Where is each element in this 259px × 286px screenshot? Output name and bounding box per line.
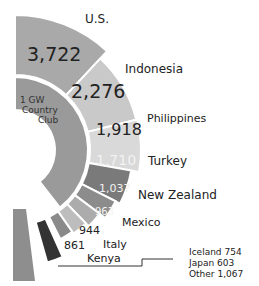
inner-ring-label: 1 GW Country Club <box>20 95 64 125</box>
label-philippines: Philippines <box>147 113 206 124</box>
note-other: Other 1,067 <box>189 269 243 280</box>
label-new-zealand: New Zealand <box>138 189 217 201</box>
value-turkey: 1,710 <box>96 153 136 167</box>
value-philippines: 1,918 <box>96 122 142 138</box>
label-turkey: Turkey <box>148 155 187 167</box>
inner-label-line2: Country <box>20 105 64 115</box>
inner-label-line3: Club <box>20 115 64 125</box>
note-iceland: Iceland 754 <box>189 247 243 258</box>
value-mexico: 963 <box>95 207 114 217</box>
inner-label-line1: 1 GW <box>20 95 64 105</box>
value-us: 3,722 <box>27 45 81 64</box>
value-kenya: 861 <box>64 240 85 251</box>
note-japan: Japan 603 <box>189 258 243 269</box>
label-us: U.S. <box>85 13 109 25</box>
value-new-zealand: 1,037 <box>99 183 131 194</box>
value-indonesia: 2,276 <box>71 82 125 101</box>
label-indonesia: Indonesia <box>125 63 183 75</box>
value-italy: 944 <box>79 225 100 236</box>
label-mexico: Mexico <box>122 217 160 228</box>
grouped-note: Iceland 754 Japan 603 Other 1,067 <box>189 247 243 280</box>
segment-japan-other <box>13 209 35 281</box>
label-italy: Italy <box>103 239 127 250</box>
label-kenya: Kenya <box>87 253 121 264</box>
